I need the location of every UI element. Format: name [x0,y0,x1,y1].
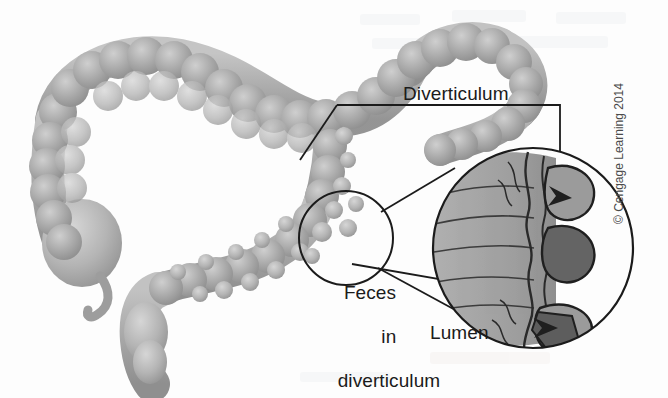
label-feces-line1: Feces [344,282,396,303]
label-feces-in-diverticulum: Feces in diverticulum [300,282,440,392]
figure-canvas: Diverticulum Feces in diverticulum Lumen… [0,0,668,398]
lower-diverticulum [532,305,592,354]
label-lumen: Lumen [430,322,489,344]
label-feces-line2: in [381,326,396,347]
middle-diverticulum [542,226,594,282]
copyright-notice: © Cengage Learning 2014 [612,64,626,224]
label-feces-line3: diverticulum [338,370,441,391]
label-diverticulum: Diverticulum [403,83,509,105]
